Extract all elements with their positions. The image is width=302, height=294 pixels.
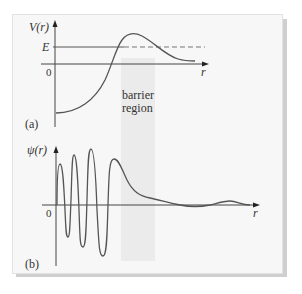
a-x-axis-label: r [201, 65, 206, 79]
a-origin-label: 0 [46, 66, 52, 78]
panel-b-tag: (b) [25, 257, 39, 271]
panel-a: V(r) E 0 r barrier region (a) [25, 20, 209, 131]
b-y-axis-arrow-icon [54, 146, 59, 153]
barrier-label-line1: barrier [122, 88, 154, 102]
panel-a-tag: (a) [25, 117, 38, 131]
a-y-axis-arrow-icon [53, 20, 58, 27]
barrier-label-line2: region [122, 101, 153, 115]
a-y-axis-label: V(r) [29, 20, 49, 34]
energy-label: E [41, 40, 50, 54]
b-origin-label: 0 [46, 207, 52, 219]
b-y-axis-label: ψ(r) [27, 143, 47, 157]
b-x-axis-label: r [253, 206, 258, 220]
figure-svg: V(r) E 0 r barrier region (a) ψ(r) 0 r (… [0, 0, 302, 294]
